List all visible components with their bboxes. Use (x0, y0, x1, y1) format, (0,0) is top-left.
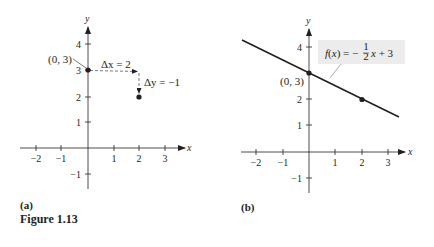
delta-x-label: Δx = 2 (101, 58, 131, 70)
function-label-suffix: x + 3 (370, 47, 394, 59)
y-axis-name: y (84, 13, 90, 24)
x-tick-label: 1 (112, 153, 117, 164)
data-point (306, 70, 311, 75)
figure-title: Figure 1.13 (20, 212, 78, 227)
y-axis-name: y (305, 15, 311, 26)
delta-y-label: Δy = −1 (144, 76, 180, 88)
x-tick-label: 3 (386, 157, 391, 168)
x-tick-label: −2 (31, 153, 42, 164)
data-point (85, 67, 90, 72)
y-tick-label: 1 (76, 117, 81, 128)
x-tick-label: −1 (278, 157, 289, 168)
panel-b: −2 −1 1 2 3 4 2 1 −1 x y f(x) = − 1 2 x … (241, 15, 413, 193)
delta-x-dashed-line (90, 71, 137, 72)
data-point (359, 97, 364, 102)
figure-canvas: −2 −1 1 2 3 4 3 2 1 −1 x y (0, 3) Δx = 2… (0, 0, 434, 247)
y-tick-label: 4 (297, 42, 302, 53)
panel-b-label: (b) (241, 201, 254, 213)
function-label-frac-den: 2 (363, 50, 369, 62)
y-tick-label: −1 (291, 173, 302, 184)
x-tick-label: 2 (137, 153, 142, 164)
x-tick-label: 2 (360, 157, 365, 168)
y-tick-label: 2 (297, 94, 302, 105)
x-axis-name: x (407, 146, 413, 157)
y-tick-label: −1 (70, 169, 81, 180)
data-point (136, 94, 141, 99)
y-tick-label: 1 (297, 120, 302, 131)
panel-a: −2 −1 1 2 3 4 3 2 1 −1 x y (0, 3) Δx = 2… (20, 13, 192, 189)
x-axis-name: x (186, 142, 192, 153)
x-tick-label: −1 (56, 153, 67, 164)
panel-a-label: (a) (20, 199, 33, 211)
y-tick-label: 4 (76, 39, 81, 50)
x-tick-label: 3 (163, 153, 168, 164)
function-label: f(x) = − (325, 47, 358, 60)
function-leader-line (330, 64, 341, 78)
y-tick-label: 3 (76, 65, 81, 76)
x-tick-label: 1 (333, 157, 338, 168)
point-label: (0, 3) (48, 53, 72, 66)
point-label: (0, 3) (280, 75, 304, 88)
y-tick-label: 2 (76, 92, 81, 103)
x-tick-label: −2 (251, 157, 262, 168)
